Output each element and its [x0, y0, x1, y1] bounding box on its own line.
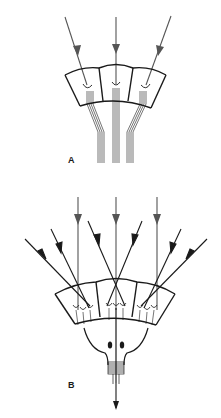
panel-a — [65, 16, 171, 163]
panel-b-fiber-stubs — [76, 308, 154, 325]
panel-a-incoming-arrows — [65, 16, 171, 85]
panel-a-fiber-bundles — [87, 88, 146, 163]
arrowhead-down-icon — [113, 401, 119, 410]
arrowhead-icon — [170, 242, 176, 253]
arrowhead-icon — [112, 214, 120, 225]
panel-b-label: B — [68, 381, 75, 390]
arrowhead-icon — [94, 234, 100, 245]
arrowhead-icon — [112, 44, 120, 54]
arrowhead-icon — [132, 234, 138, 245]
convergence-diagram: A B — [0, 0, 221, 418]
panel-b-vertical-arrows — [74, 197, 161, 310]
panel-b — [25, 197, 207, 410]
panel-a-label: A — [68, 156, 75, 165]
arrowhead-icon — [56, 242, 62, 253]
arrowhead-icon — [74, 214, 82, 225]
panel-b-output-arrow — [113, 383, 119, 410]
diagram-svg — [0, 0, 221, 418]
arrowhead-icon — [153, 214, 161, 225]
